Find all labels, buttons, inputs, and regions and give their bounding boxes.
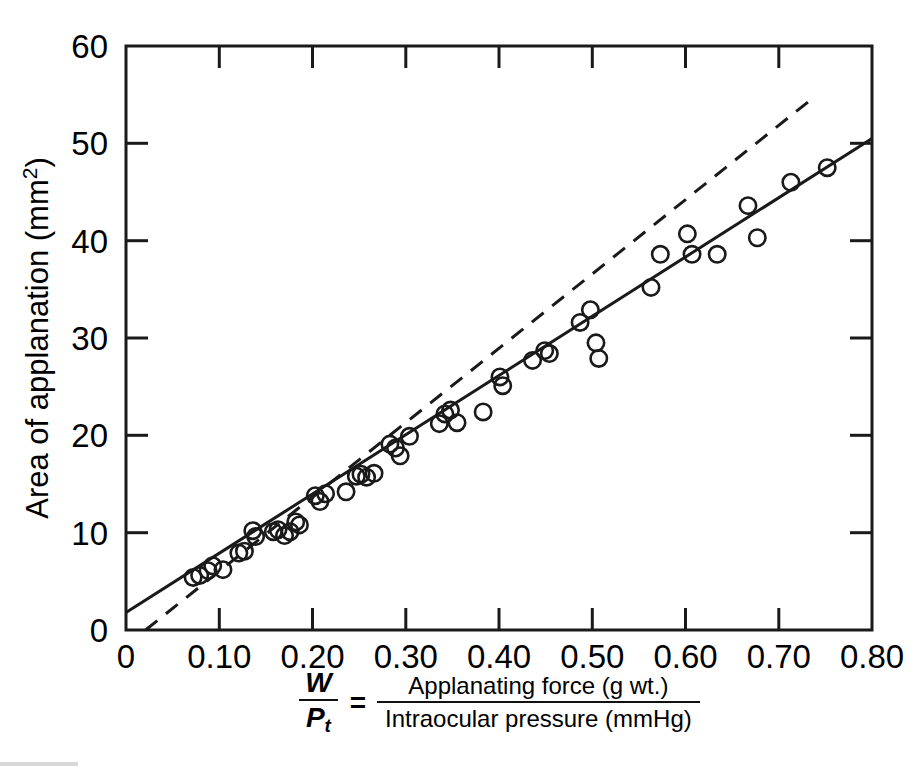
data-point [588,335,604,351]
x-axis-title-p: P [306,702,325,733]
data-point [541,345,557,361]
data-point [740,197,756,213]
page-bottom-rule [0,762,78,766]
x-axis-ticks [219,608,779,630]
y-axis-title-text: Area of applanation (mm2) [18,157,55,518]
figure-container: 0102030405060 00.100.200.300.400.500.600… [0,0,918,772]
y-axis-ticks-right [850,143,872,532]
data-point [643,279,659,295]
y-tick-labels: 0102030405060 [71,28,108,649]
regression-line-solid [126,138,872,612]
data-point [449,414,465,430]
y-axis-ticks [126,143,148,532]
x-axis-title-rhs-denominator: Intraocular pressure (mmHg) [377,701,700,732]
y-axis-title: Area of applanation (mm2) [18,157,55,518]
y-tick-label: 20 [71,417,108,454]
y-tick-label: 40 [71,223,108,260]
x-axis-title-pt: Pt [299,699,338,737]
y-tick-label: 50 [71,125,108,162]
x-axis-title-rhs-fraction: Applanating force (g wt.) Intraocular pr… [377,673,700,732]
y-axis-title-main: Area of applanation (mm [20,179,55,518]
data-point [582,302,598,318]
data-point [338,484,354,500]
data-point [679,226,695,242]
data-point [236,543,252,559]
scatter-plot: 0102030405060 00.100.200.300.400.500.600… [0,0,918,772]
x-axis-title-lhs-fraction: W Pt [298,668,338,737]
data-point [205,558,221,574]
fit-lines [126,99,872,630]
y-axis-title-tail: ) [20,157,55,167]
x-axis-title: W Pt = Applanating force (g wt.) Intraoc… [126,668,872,737]
data-point [591,350,607,366]
y-tick-label: 30 [71,320,108,357]
data-point [431,415,447,431]
y-tick-label: 10 [71,515,108,552]
x-axis-title-p-subscript: t [325,716,331,737]
data-point [749,230,765,246]
x-axis-title-rhs-numerator: Applanating force (g wt.) [400,673,676,701]
data-point [652,246,668,262]
data-point [709,246,725,262]
data-point [783,174,799,190]
x-axis-ticks-top [219,46,779,68]
x-axis-title-equals: = [348,687,368,719]
y-axis-title-superscript: 2 [18,168,41,180]
x-axis-title-w: W [298,668,338,699]
y-tick-label: 0 [90,612,108,649]
y-tick-label: 60 [71,28,108,65]
data-point [475,404,491,420]
